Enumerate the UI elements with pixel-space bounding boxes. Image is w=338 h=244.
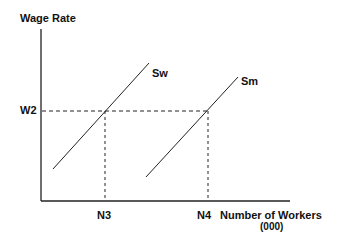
- diagram-canvas: [0, 0, 338, 244]
- y-axis-label: Wage Rate: [20, 13, 76, 24]
- n4-label: N4: [197, 210, 211, 221]
- x-axis-unit: (000): [260, 222, 283, 232]
- curve-sw: [53, 63, 149, 169]
- sm-curve-label: Sm: [241, 76, 258, 87]
- sw-curve-label: Sw: [152, 68, 168, 79]
- x-axis-label: Number of Workers: [220, 210, 322, 221]
- curve-sm: [146, 77, 238, 177]
- w2-label: W2: [20, 105, 37, 116]
- n3-label: N3: [97, 210, 111, 221]
